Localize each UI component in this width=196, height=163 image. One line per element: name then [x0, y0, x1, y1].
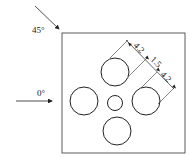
dim-label-4-2-b: 4.2	[159, 69, 174, 84]
diagram-canvas: 45° 0° 4.2 1.5 4.2	[0, 0, 196, 163]
dim-label-1-5: 1.5	[149, 54, 164, 69]
label-0-deg: 0°	[37, 88, 46, 98]
hole-center	[108, 96, 123, 111]
hole-right	[132, 87, 160, 115]
hole-bottom	[103, 117, 131, 145]
hole-left	[70, 87, 98, 115]
dim-label-4-2-a: 4.2	[132, 40, 147, 55]
label-45-deg: 45°	[32, 25, 45, 35]
hole-top	[101, 58, 129, 86]
plate-square	[62, 33, 185, 153]
